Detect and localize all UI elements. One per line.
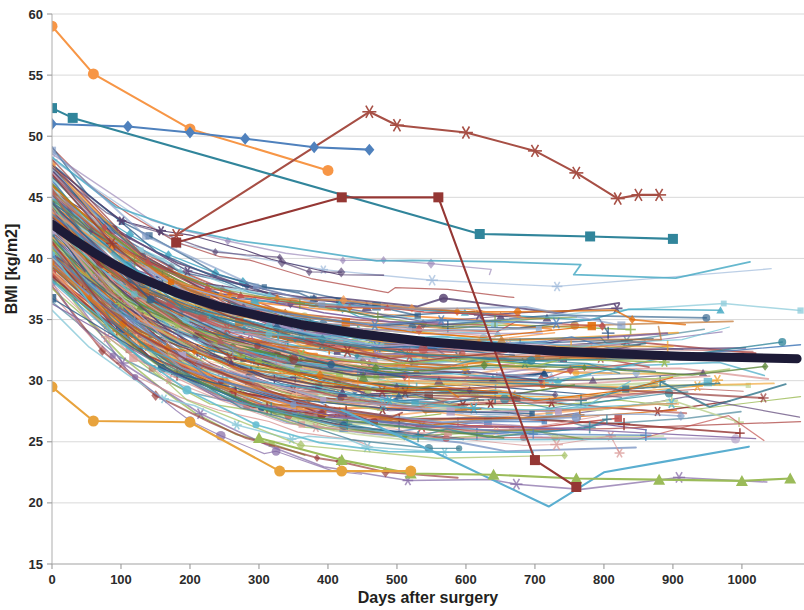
series-marker [561,451,568,460]
series-marker [571,482,581,492]
y-tick-label: 20 [29,495,43,510]
series-marker [702,314,710,322]
series-marker [555,408,562,415]
series-marker [253,284,259,290]
series-marker [289,355,298,364]
series-marker [668,234,678,244]
series-marker [552,282,563,291]
series-marker [272,447,281,456]
y-tick-label: 40 [29,251,43,266]
y-axis-title: BMI [kg/m2] [3,224,20,315]
chart-canvas: 1520253035404550556001002003004005006007… [0,0,804,610]
series-marker [588,322,596,330]
y-tick-label: 60 [29,7,43,22]
y-tick-label: 35 [29,312,43,327]
series-marker [337,192,347,202]
y-tick-label: 15 [29,557,43,572]
series-marker [290,401,296,407]
series-marker [625,324,635,334]
series-marker [662,340,674,352]
series-marker [110,353,116,359]
series-marker [184,417,195,428]
series-marker [336,466,347,477]
series-marker [550,439,563,450]
series-marker [652,189,666,201]
series-marker [337,267,345,277]
series-marker [530,455,540,465]
x-tick-label: 0 [48,572,55,587]
series-marker [232,421,242,430]
series-marker [622,385,629,392]
y-tick-label: 55 [29,68,43,83]
series-marker [142,233,149,240]
series-marker [68,113,78,123]
series-marker [615,449,625,458]
x-axis-title: Days after surgery [358,589,499,606]
y-tick-label: 50 [29,129,43,144]
series-marker [309,141,319,153]
series-marker [123,120,133,132]
series-marker [88,68,99,79]
x-tick-label: 800 [593,572,615,587]
series-marker [673,472,685,483]
series-marker [475,229,485,239]
x-tick-label: 900 [662,572,684,587]
series-marker [131,291,138,298]
patient-trajectory-highlight [52,26,328,170]
series-marker [459,126,473,138]
y-tick-label: 25 [29,434,43,449]
series-marker [573,370,580,377]
series-marker [390,119,404,131]
bmi-trajectory-chart: 1520253035404550556001002003004005006007… [0,0,804,610]
series-marker [426,275,438,285]
x-tick-label: 200 [179,572,201,587]
series-marker [405,466,416,477]
x-tick-label: 1000 [727,572,756,587]
series-marker [585,231,595,241]
series-marker [456,445,462,451]
series-marker [132,374,138,380]
series-marker [327,361,334,368]
series-marker [510,479,522,490]
series-marker [252,421,259,428]
y-tick-label: 30 [29,373,43,388]
series-marker [614,414,622,422]
series-marker [240,133,250,145]
series-marker [88,416,99,427]
series-marker [721,301,727,307]
series-layer [46,21,804,507]
series-marker [631,189,645,201]
series-marker [340,256,346,264]
x-tick-label: 100 [110,572,132,587]
series-marker [617,321,625,329]
series-marker [265,331,272,338]
series-marker [182,385,191,394]
series-marker [778,338,786,346]
series-marker [529,411,534,416]
series-marker [433,192,443,202]
series-marker [528,145,542,157]
series-marker [318,301,325,308]
series-marker [797,307,803,313]
series-marker [274,466,285,477]
series-marker [415,312,421,318]
x-tick-label: 400 [317,572,339,587]
series-marker [171,238,181,248]
series-marker [731,434,740,443]
x-tick-label: 300 [248,572,270,587]
series-marker [527,356,535,364]
series-marker [147,296,155,304]
patient-trajectory-highlight [52,124,369,150]
series-marker [572,413,582,423]
series-marker [322,165,333,176]
y-tick-label: 45 [29,190,43,205]
series-marker [704,378,712,386]
series-marker [762,362,769,371]
x-tick-label: 500 [386,572,408,587]
series-marker [364,144,374,156]
series-marker [439,294,448,303]
series-marker [253,432,265,443]
x-tick-label: 700 [524,572,546,587]
x-tick-label: 600 [455,572,477,587]
